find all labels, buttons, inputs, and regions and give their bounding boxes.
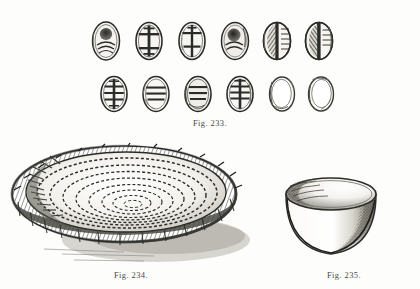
figure-235-cup: Fig. 235. xyxy=(276,172,396,270)
die-row0-item1 xyxy=(131,18,167,64)
figure-234-caption: Fig. 234. xyxy=(105,270,157,280)
die-row1-item1 xyxy=(138,73,174,119)
die-row1-item0 xyxy=(96,73,132,119)
figure-233-dice-plate: Fig. 233. xyxy=(0,0,420,135)
die-row0-item3 xyxy=(217,18,253,64)
die-row1-item2 xyxy=(180,73,216,119)
die-row1-item3 xyxy=(222,73,258,119)
figure-235-caption: Fig. 235. xyxy=(318,270,370,280)
die-row0-item5 xyxy=(301,18,337,64)
figure-234-basket: Fig. 234. xyxy=(4,136,276,268)
die-row0-item2 xyxy=(174,18,210,64)
die-row1-item4 xyxy=(264,73,300,119)
figure-233-caption: Fig. 233. xyxy=(186,118,234,128)
engraving-page: Fig. 233. xyxy=(0,0,420,289)
die-row1-item5 xyxy=(303,73,339,119)
die-row0-item4 xyxy=(259,18,295,64)
die-row0-item0 xyxy=(88,18,124,64)
